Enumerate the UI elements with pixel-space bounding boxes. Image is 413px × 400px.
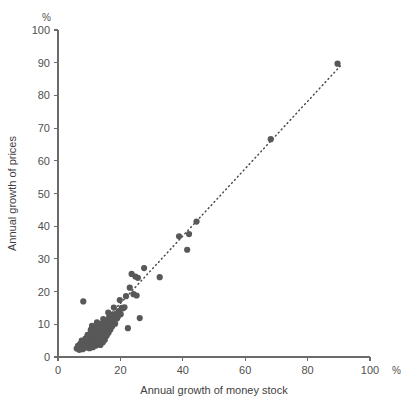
y-tick-label: 60: [38, 155, 50, 167]
x-axis-unit-label: %: [392, 365, 401, 376]
data-point: [135, 275, 141, 281]
y-axis-title: Annual growth of prices: [6, 136, 18, 251]
data-point: [134, 292, 140, 298]
x-tick-label: 80: [301, 364, 313, 376]
x-axis-title: Annual growth of money stock: [140, 384, 288, 396]
data-point: [121, 304, 127, 310]
y-tick-label: 50: [38, 188, 50, 200]
data-point: [117, 297, 123, 303]
data-point: [127, 285, 133, 291]
data-point: [334, 61, 340, 67]
scatter-chart: 0102030405060708090100020406080100%%Annu…: [0, 0, 413, 400]
data-point: [85, 332, 91, 338]
data-point: [123, 293, 129, 299]
data-point: [94, 319, 100, 325]
y-tick-label: 90: [38, 57, 50, 69]
plot-area: 0102030405060708090100020406080100%%Annu…: [0, 0, 413, 400]
data-point: [80, 298, 86, 304]
x-tick-label: 100: [361, 364, 379, 376]
data-point: [157, 274, 163, 280]
data-point: [81, 345, 87, 351]
y-tick-label: 70: [38, 122, 50, 134]
x-tick-label: 20: [114, 364, 126, 376]
data-point: [184, 247, 190, 253]
axis-labels-layer: 0102030405060708090100020406080100%%Annu…: [6, 12, 401, 396]
y-tick-label: 40: [38, 220, 50, 232]
data-point: [100, 316, 106, 322]
y-tick-label: 30: [38, 253, 50, 265]
data-point: [137, 315, 143, 321]
data-point: [118, 311, 124, 317]
data-point: [141, 265, 147, 271]
data-point: [193, 219, 199, 225]
data-point: [89, 323, 95, 329]
y-tick-label: 20: [38, 286, 50, 298]
y-tick-label: 100: [32, 24, 50, 36]
data-point: [105, 309, 111, 315]
y-tick-label: 10: [38, 318, 50, 330]
x-tick-label: 60: [239, 364, 251, 376]
y-axis-unit-label: %: [42, 12, 51, 23]
data-point: [186, 231, 192, 237]
data-point: [111, 305, 117, 311]
axes-layer: [54, 30, 370, 361]
x-tick-label: 0: [55, 364, 61, 376]
y-tick-label: 80: [38, 89, 50, 101]
data-point: [268, 136, 274, 142]
data-point: [108, 318, 114, 324]
data-point: [125, 325, 131, 331]
data-point: [91, 330, 97, 336]
y-tick-label: 0: [44, 351, 50, 363]
data-point: [86, 345, 92, 351]
data-point: [176, 233, 182, 239]
x-tick-label: 40: [177, 364, 189, 376]
data-points-layer: [74, 61, 341, 353]
